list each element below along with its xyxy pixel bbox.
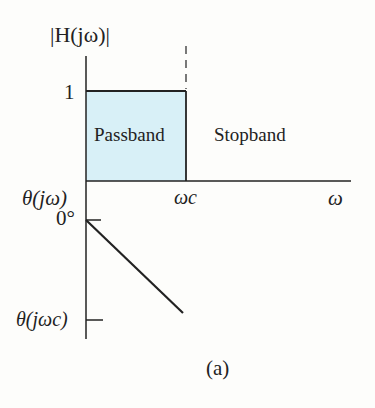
magnitude-label: |H(jω)| [50, 22, 110, 48]
passband-label: Passband [94, 124, 165, 146]
phase-line [86, 220, 183, 313]
magnitude-tick-label: 1 [64, 80, 75, 105]
figure-caption: (a) [206, 356, 229, 381]
cutoff-frequency-label: ωc [174, 186, 197, 209]
frequency-label: ω [328, 186, 343, 211]
stopband-label: Stopband [214, 124, 286, 146]
zero-degree-label: 0° [56, 206, 75, 231]
cutoff-phase-label: θ(jωc) [16, 308, 68, 331]
